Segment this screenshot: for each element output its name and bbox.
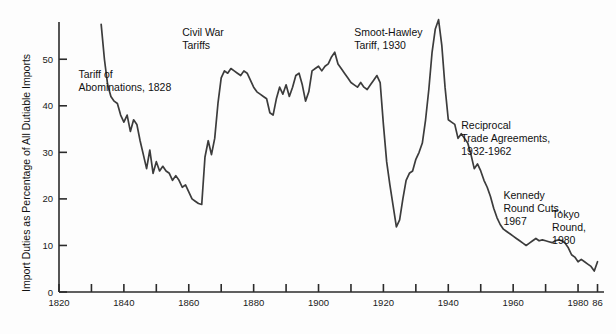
x-tick-label: 1820 <box>48 297 69 308</box>
x-tick-label: 1900 <box>308 297 329 308</box>
y-tick-label: 10 <box>42 240 53 251</box>
y-tick-label: 50 <box>42 54 53 65</box>
tariff-history-line-chart: Import Duties as Percentage of All Dutia… <box>0 0 616 334</box>
x-tick-label: 86 <box>592 297 603 308</box>
x-tick-label: 1920 <box>373 297 394 308</box>
chart-background <box>0 0 616 334</box>
chart-figure: Import Duties as Percentage of All Dutia… <box>0 0 616 334</box>
x-tick-label: 1940 <box>438 297 459 308</box>
x-tick-label: 1980 <box>567 297 588 308</box>
y-tick-label: 20 <box>42 193 53 204</box>
x-tick-label: 1860 <box>178 297 199 308</box>
x-tick-label: 1880 <box>243 297 264 308</box>
y-tick-label: 0 <box>48 287 53 298</box>
y-tick-label: 40 <box>42 100 53 111</box>
y-axis-title: Import Duties as Percentage of All Dutia… <box>20 54 32 292</box>
y-tick-label: 30 <box>42 147 53 158</box>
x-tick-label: 1960 <box>503 297 524 308</box>
x-tick-label: 1840 <box>113 297 134 308</box>
